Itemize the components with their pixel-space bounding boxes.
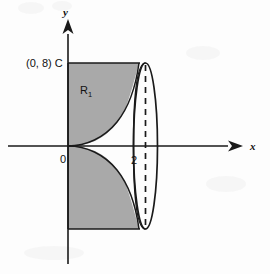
y-axis-label: y bbox=[61, 6, 68, 18]
x-axis-arrowhead bbox=[228, 141, 243, 152]
revolution-figure: (0, 8) C R1 0 2 x y bbox=[0, 0, 270, 274]
x-tick-label-2: 2 bbox=[131, 154, 137, 166]
region-label-main: R bbox=[80, 84, 88, 96]
region-label-subscript: 1 bbox=[88, 90, 92, 99]
corner-point-label: (0, 8) C bbox=[26, 57, 63, 69]
figure-container: (0, 8) C R1 0 2 x y bbox=[0, 0, 270, 274]
y-axis-arrowhead bbox=[63, 19, 74, 34]
origin-label: 0 bbox=[60, 153, 66, 165]
x-axis-label: x bbox=[249, 140, 256, 152]
